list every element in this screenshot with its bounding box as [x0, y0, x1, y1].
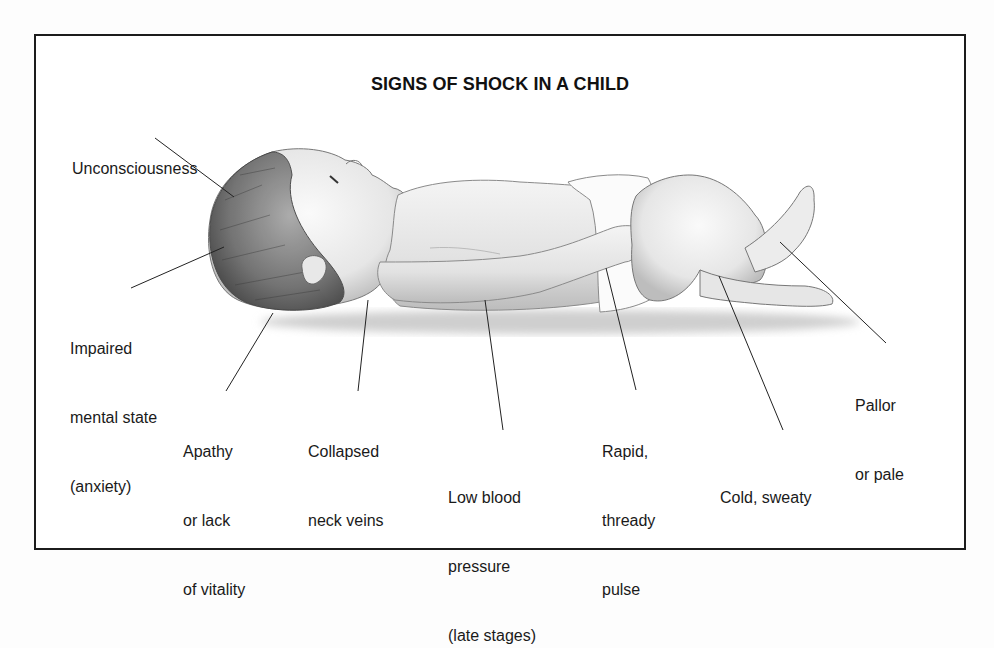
- label-line: Low blood: [448, 486, 536, 509]
- label-line: (late stages): [448, 624, 536, 647]
- leader-line-impaired-mental-state: [131, 247, 224, 288]
- label-line: Unconsciousness: [72, 157, 197, 180]
- label-rapid-thready-pulse: Rapid, thready pulse: [602, 394, 655, 624]
- label-apathy: Apathy or lack of vitality: [183, 394, 245, 624]
- label-unconsciousness: Unconsciousness: [72, 111, 197, 203]
- label-line: pressure: [448, 555, 536, 578]
- label-line: pulse: [602, 578, 655, 601]
- label-line: Apathy: [183, 440, 245, 463]
- label-line: Rapid,: [602, 440, 655, 463]
- label-line: or lack: [183, 509, 245, 532]
- label-line: mental state: [70, 406, 157, 429]
- label-line: thready: [602, 509, 655, 532]
- surface-shadow: [260, 310, 860, 334]
- label-line: Pallor: [855, 394, 904, 417]
- label-line: (anxiety): [70, 475, 157, 498]
- label-line: neck veins: [308, 509, 384, 532]
- leader-line-apathy: [226, 313, 273, 391]
- head: [208, 149, 408, 311]
- legs: [631, 175, 833, 306]
- label-line: Impaired: [70, 337, 157, 360]
- label-pallor: Pallor or pale: [855, 348, 904, 509]
- label-line: of vitality: [183, 578, 245, 601]
- label-low-blood-pressure: Low blood pressure (late stages): [448, 440, 536, 648]
- label-line: or pale: [855, 463, 904, 486]
- label-cold-sweaty: Cold, sweaty: [720, 440, 812, 532]
- label-line: Collapsed: [308, 440, 384, 463]
- label-line: Cold, sweaty: [720, 486, 812, 509]
- label-collapsed-neck-veins: Collapsed neck veins: [308, 394, 384, 555]
- label-impaired-mental-state: Impaired mental state (anxiety): [70, 291, 157, 521]
